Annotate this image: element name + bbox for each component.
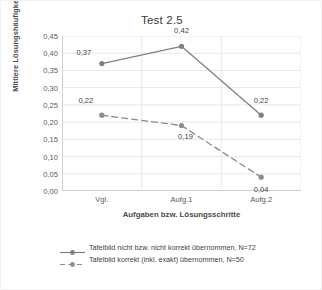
data-point-marker xyxy=(179,44,184,49)
legend-item[interactable]: Tafelbild korrekt (inkl. exakt) übernomm… xyxy=(1,253,322,265)
data-point-marker xyxy=(99,61,104,66)
legend-marker-icon xyxy=(59,243,86,252)
y-axis-tick-labels: 0,450,400,350,300,250,200,150,100,050,00 xyxy=(27,36,58,191)
y-axis-tick-label: 0,05 xyxy=(27,169,58,178)
y-axis-tick-label: 0,30 xyxy=(27,83,58,92)
x-axis-tick-label: Aufg.1 xyxy=(147,195,217,204)
y-axis-title: Mittlere Lösungshäufigkeit xyxy=(11,0,20,104)
data-point-label: 0,42 xyxy=(162,26,202,35)
y-axis-tick-label: 0,20 xyxy=(27,118,58,127)
data-point-label: 0,22 xyxy=(66,96,106,105)
data-point-label: 0,22 xyxy=(241,96,281,105)
data-point-marker xyxy=(259,113,264,118)
legend-label: Tafelbild nicht bzw. nicht korrekt übern… xyxy=(89,243,256,252)
y-axis-tick-label: 0,00 xyxy=(27,187,58,196)
y-axis-tick-label: 0,15 xyxy=(27,135,58,144)
legend-marker-icon xyxy=(59,255,86,264)
data-point-marker xyxy=(179,123,184,128)
y-axis-tick-label: 0,25 xyxy=(27,100,58,109)
legend-dot xyxy=(70,262,75,267)
x-axis-tick-label: Aufg.2 xyxy=(226,195,296,204)
data-point-marker xyxy=(99,113,104,118)
y-axis-tick-label: 0,45 xyxy=(27,32,58,41)
data-point-label: 0,04 xyxy=(241,185,281,194)
plot-area: 0,370,420,220,220,190,04 xyxy=(62,36,301,191)
y-axis-tick-label: 0,40 xyxy=(27,49,58,58)
data-point-marker xyxy=(259,175,264,180)
chart-title: Test 2.5 xyxy=(1,14,322,26)
x-axis-title: Aufgaben bzw. Lösungsschritte xyxy=(62,210,301,219)
chart-legend: Tafelbild nicht bzw. nicht korrekt übern… xyxy=(1,241,322,265)
legend-label: Tafelbild korrekt (inkl. exakt) übernomm… xyxy=(89,255,244,264)
data-point-label: 0,19 xyxy=(166,132,206,141)
y-axis-tick-label: 0,35 xyxy=(27,66,58,75)
plot-svg xyxy=(62,36,301,191)
x-axis-tick-label: Vgl. xyxy=(67,195,137,204)
data-point-label: 0,37 xyxy=(64,48,104,57)
x-axis-tick-labels: Vgl.Aufg.1Aufg.2 xyxy=(62,195,301,207)
y-axis-tick-label: 0,10 xyxy=(27,152,58,161)
chart-container: Test 2.5 Mittlere Lösungshäufigkeit 0,45… xyxy=(0,0,322,290)
legend-item[interactable]: Tafelbild nicht bzw. nicht korrekt übern… xyxy=(1,241,322,253)
